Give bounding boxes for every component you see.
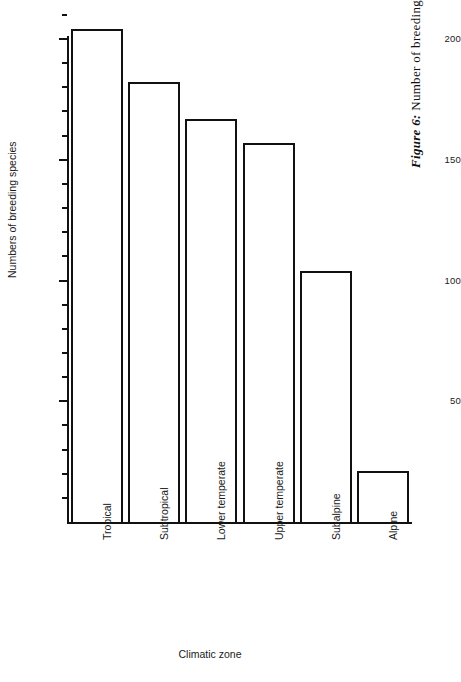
bar (128, 82, 180, 524)
y-axis-minor-tick (62, 255, 67, 257)
bar (300, 271, 352, 524)
y-axis-minor-tick (62, 231, 67, 233)
x-axis-category-label: Alpine (387, 410, 399, 540)
x-axis-category-label: Upper temperate (273, 410, 285, 540)
bar (357, 471, 409, 524)
y-axis-minor-tick (62, 304, 67, 306)
y-axis-minor-tick (62, 376, 67, 378)
y-axis-minor-tick (62, 352, 67, 354)
figure-caption-body: Number of breeding birds in Nepal's clim… (408, 0, 423, 111)
y-axis-minor-tick (62, 497, 67, 499)
figure-caption: Figure 6: Number of breeding birds in Ne… (408, 0, 424, 168)
y-axis-minor-tick (62, 135, 67, 137)
y-axis-title: Numbers of breeding species (6, 78, 18, 278)
y-axis-minor-tick (62, 86, 67, 88)
x-axis-category-label: Tropical (101, 410, 113, 540)
y-axis-minor-tick (62, 328, 67, 330)
x-axis-category-label: Subtropical (158, 410, 170, 540)
y-axis-minor-tick (62, 14, 67, 16)
bar-chart-plot-area: 50100150200 TropicalSubtropicalLower tem… (0, 0, 461, 682)
y-axis-major-tick (59, 400, 67, 402)
y-axis-minor-tick (62, 207, 67, 209)
y-axis-line (67, 36, 69, 524)
bar (243, 143, 295, 524)
bar (185, 119, 237, 524)
y-axis-minor-tick (62, 424, 67, 426)
x-axis-title: Climatic zone (0, 648, 420, 660)
y-axis-minor-tick (62, 449, 67, 451)
y-axis-tick-label: 50 (405, 395, 461, 406)
y-axis-minor-tick (62, 183, 67, 185)
x-axis-category-label: Lower temperate (215, 410, 227, 540)
figure-number: Figure 6: (408, 114, 423, 168)
y-axis-minor-tick (62, 473, 67, 475)
figure-root: 50100150200 TropicalSubtropicalLower tem… (0, 0, 461, 682)
y-axis-major-tick (59, 38, 67, 40)
figure-caption-text (408, 111, 423, 115)
y-axis-tick-label: 100 (405, 275, 461, 286)
x-axis-category-label: Subalpine (330, 410, 342, 540)
bar (71, 29, 123, 524)
y-axis-minor-tick (62, 62, 67, 64)
y-axis-major-tick (59, 280, 67, 282)
y-axis-major-tick (59, 159, 67, 161)
y-axis-minor-tick (62, 110, 67, 112)
